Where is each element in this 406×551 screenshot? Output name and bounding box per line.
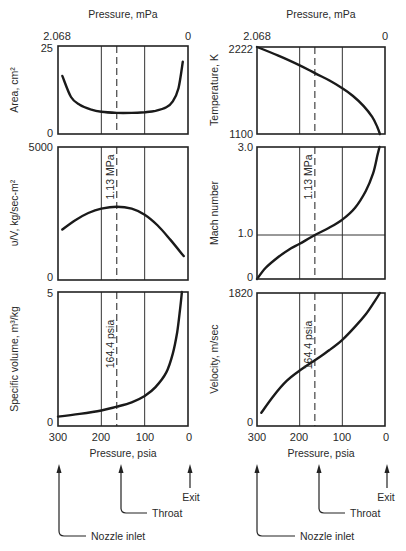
x-tick-300-right: 300: [248, 431, 266, 443]
bottom-axis-title-right: Pressure, psia: [287, 447, 354, 459]
plot-frame: [58, 46, 188, 134]
mach-tick-top: 3.0: [238, 141, 253, 153]
specvol-tick-top: 5: [47, 287, 53, 299]
y-label-temperature: Temperature, K: [208, 54, 220, 126]
dashed-line-annotation: 1.13 MPa: [104, 154, 116, 199]
y-label-specific-volume: Specific volume, m³/kg: [8, 306, 20, 412]
location-arrows-left: Nozzle inlet Throat Exit: [57, 464, 200, 542]
data-curve: [261, 293, 380, 413]
nozzle-property-charts: Pressure, mPa Pressure, mPa 2.068 0 2.06…: [0, 0, 406, 551]
data-curve: [62, 207, 183, 256]
x-tick-200-right: 200: [290, 431, 308, 443]
top-tick-right-a: 0: [185, 30, 191, 42]
y-label-velocity: Velocity, m/sec: [208, 324, 220, 393]
y-label-mass-flux: υ/V, kg/sec-m²: [8, 179, 20, 246]
throat-arrowhead-left: [119, 464, 124, 473]
inlet-label-left: Nozzle inlet: [91, 530, 145, 542]
flux-tick-bottom: 0: [47, 271, 53, 283]
x-tick-0-right: 0: [383, 431, 389, 443]
vel-tick-bottom: 0: [247, 416, 253, 428]
throat-label-left: Throat: [152, 507, 182, 519]
data-curve: [257, 147, 380, 279]
x-tick-100-left: 100: [136, 431, 154, 443]
mach-tick-mid: 1.0: [238, 227, 253, 239]
mass-flux-panel: 1.13 MPa: [58, 147, 188, 280]
dashed-line-annotation: 164.4 psia: [104, 320, 116, 369]
x-tick-300-left: 300: [49, 431, 67, 443]
exit-label-right: Exit: [377, 491, 395, 503]
throat-label-right: Throat: [350, 507, 380, 519]
data-curve: [257, 47, 380, 134]
throat-arrow-right: [319, 472, 345, 513]
exit-arrowhead-right: [385, 464, 390, 473]
specvol-tick-bottom: 0: [47, 416, 53, 428]
throat-arrow-left: [121, 472, 147, 513]
exit-label-left: Exit: [182, 491, 200, 503]
temp-tick-top: 2222: [229, 43, 253, 55]
specific-volume-panel: 164.4 psia: [58, 292, 188, 426]
top-axis-title-left: Pressure, mPa: [88, 8, 158, 20]
velocity-panel: 164.4 psia: [257, 293, 385, 426]
throat-arrowhead-right: [317, 464, 322, 473]
x-tick-200-left: 200: [92, 431, 110, 443]
inlet-arrowhead-right: [255, 464, 260, 473]
y-label-area: Area, cm²: [8, 67, 20, 113]
exit-arrowhead-left: [188, 464, 193, 473]
mach-number-panel: 1.13 MPa: [257, 147, 385, 279]
top-tick-right-b: 0: [382, 30, 388, 42]
mach-tick-bottom: 0: [247, 271, 253, 283]
area-tick-top: 25: [41, 42, 53, 54]
area-panel: [58, 46, 188, 134]
dashed-line-annotation: 1.13 MPa: [302, 154, 314, 199]
dashed-line-annotation: 164.4 psia: [302, 321, 314, 370]
location-arrows-right: Nozzle inlet Throat Exit: [255, 464, 395, 542]
bottom-axis-title-left: Pressure, psia: [89, 447, 156, 459]
top-tick-left-b: 2.068: [243, 30, 271, 42]
plot-frame: [58, 147, 188, 280]
inlet-arrow-right: [257, 472, 295, 536]
x-tick-100-right: 100: [333, 431, 351, 443]
x-tick-0-left: 0: [186, 431, 192, 443]
inlet-arrow-left: [59, 472, 86, 536]
y-label-mach: Mach number: [208, 180, 220, 245]
top-axis-title-right: Pressure, mPa: [286, 8, 356, 20]
inlet-label-right: Nozzle inlet: [300, 530, 354, 542]
data-curve: [62, 62, 183, 113]
area-tick-bottom: 0: [47, 127, 53, 139]
temp-tick-bottom: 1100: [229, 128, 253, 140]
inlet-arrowhead-left: [57, 464, 62, 473]
temperature-panel: [257, 47, 385, 134]
flux-tick-top: 5000: [29, 141, 53, 153]
top-tick-left-a: 2.068: [43, 30, 71, 42]
data-curve: [58, 292, 182, 417]
plot-frame: [257, 47, 385, 134]
vel-tick-top: 1820: [229, 287, 253, 299]
